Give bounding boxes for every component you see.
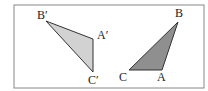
label-b-prime: B′ <box>37 8 48 22</box>
label-c: C <box>119 70 127 84</box>
label-c-prime: C′ <box>88 73 99 87</box>
label-a: A <box>157 70 166 84</box>
reflection-diagram: B′ A′ C′ B C A <box>0 0 208 91</box>
label-b: B <box>175 6 183 20</box>
label-a-prime: A′ <box>97 28 109 42</box>
